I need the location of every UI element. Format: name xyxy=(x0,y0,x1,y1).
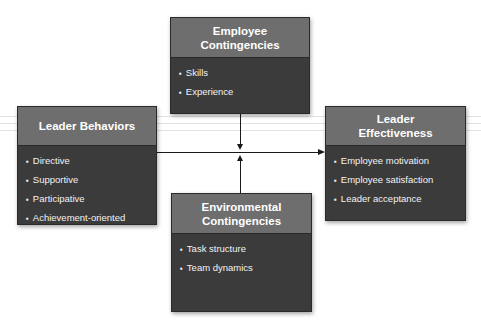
item-list: Employee motivation Employee satisfactio… xyxy=(326,146,465,209)
arrowhead-right-icon xyxy=(318,149,325,155)
item-list: Task structure Team dynamics xyxy=(172,234,311,278)
box-title: Environmental xyxy=(202,200,282,214)
list-item: Leader acceptance xyxy=(334,190,465,209)
box-header: Leader Behaviors xyxy=(18,107,156,146)
list-item: Skills xyxy=(179,64,309,83)
item-list: Skills Experience xyxy=(171,58,309,102)
vertical-connector-top xyxy=(240,112,241,146)
box-title: Contingencies xyxy=(200,38,279,52)
list-item: Participative xyxy=(26,190,156,209)
box-title: Leader Behaviors xyxy=(39,119,136,133)
list-item: Directive xyxy=(26,152,156,171)
leader-behaviors-box: Leader Behaviors Directive Supportive Pa… xyxy=(17,106,157,225)
arrowhead-down-icon xyxy=(237,144,243,150)
box-header: Employee Contingencies xyxy=(171,18,309,58)
box-header: Leader Effectiveness xyxy=(326,107,465,146)
box-header: Environmental Contingencies xyxy=(172,194,311,234)
list-item: Supportive xyxy=(26,171,156,190)
leader-effectiveness-box: Leader Effectiveness Employee motivation… xyxy=(325,106,466,221)
arrowhead-up-icon xyxy=(237,155,243,161)
item-list: Directive Supportive Participative Achie… xyxy=(18,146,156,228)
box-title: Employee xyxy=(213,24,267,38)
box-title: Leader xyxy=(377,112,415,126)
list-item: Employee satisfaction xyxy=(334,171,465,190)
vertical-connector-bottom xyxy=(240,160,241,193)
employee-contingencies-box: Employee Contingencies Skills Experience xyxy=(170,17,310,114)
list-item: Task structure xyxy=(180,240,311,259)
list-item: Employee motivation xyxy=(334,152,465,171)
list-item: Team dynamics xyxy=(180,259,311,278)
horizontal-connector xyxy=(155,152,319,153)
box-title: Effectiveness xyxy=(358,126,432,140)
list-item: Achievement-oriented xyxy=(26,209,156,228)
environmental-contingencies-box: Environmental Contingencies Task structu… xyxy=(171,193,312,312)
list-item: Experience xyxy=(179,83,309,102)
box-title: Contingencies xyxy=(202,214,281,228)
